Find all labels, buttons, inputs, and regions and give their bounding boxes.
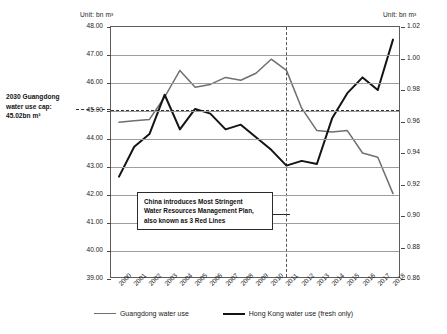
left-axis-unit-label: Unit: bn m³ <box>80 11 113 18</box>
annotation-box: China introduces Most Stringent Water Re… <box>137 192 273 230</box>
right-axis-unit-label: Unit: bn m³ <box>383 11 416 18</box>
left-axis-tick-label: 47.00 <box>73 50 103 57</box>
annotation-line-1: China introduces Most Stringent <box>144 197 267 206</box>
right-axis-tick-label: 0.92 <box>407 180 437 187</box>
left-axis-tick-label: 39.00 <box>73 274 103 281</box>
right-axis-tickmark <box>401 153 405 154</box>
legend-item-hongkong: Hong Kong water use (fresh only) <box>223 310 353 317</box>
series-lines <box>111 27 401 279</box>
gridline <box>111 139 399 140</box>
left-axis-tickmark <box>107 139 111 140</box>
legend-swatch-hongkong <box>223 313 245 315</box>
right-axis-tick-label: 1.02 <box>407 22 437 29</box>
right-axis-tickmark <box>401 90 405 91</box>
left-axis-tickmark <box>107 195 111 196</box>
series-line-hongkong <box>119 40 393 177</box>
left-axis-tick-label: 48.00 <box>73 22 103 29</box>
water-use-cap-note: 2030 Guangdong water use cap: 45.02bn m³ <box>6 92 76 121</box>
left-axis-tickmark <box>107 83 111 84</box>
right-axis-tick-label: 0.88 <box>407 243 437 250</box>
right-axis-tickmark <box>401 122 405 123</box>
left-axis-tick-label: 40.00 <box>73 246 103 253</box>
right-axis-tick-label: 0.96 <box>407 117 437 124</box>
right-axis-tick-label: 0.94 <box>407 148 437 155</box>
gridline <box>111 111 399 112</box>
right-axis-tickmark <box>401 27 405 28</box>
right-axis-tickmark <box>401 248 405 249</box>
annotation-line-2: Water Resources Management Plan, <box>144 206 267 215</box>
legend-label-guangdong: Guangdong water use <box>120 310 189 317</box>
left-axis-tickmark <box>107 111 111 112</box>
left-axis-tickmark <box>107 279 111 280</box>
right-axis-tickmark <box>401 216 405 217</box>
left-axis-tickmark <box>107 251 111 252</box>
legend-swatch-guangdong <box>94 313 116 314</box>
legend-item-guangdong: Guangdong water use <box>94 310 189 317</box>
left-axis-tick-label: 45.00 <box>73 106 103 113</box>
legend-label-hongkong: Hong Kong water use (fresh only) <box>249 310 353 317</box>
left-axis-tickmark <box>107 223 111 224</box>
right-axis-tick-label: 0.86 <box>407 274 437 281</box>
gridline <box>111 55 399 56</box>
gridline <box>111 251 399 252</box>
left-axis-tick-label: 46.00 <box>73 78 103 85</box>
left-axis-tick-label: 43.00 <box>73 162 103 169</box>
plot-area <box>110 26 400 278</box>
right-axis-tickmark <box>401 59 405 60</box>
left-axis-tickmark <box>107 55 111 56</box>
left-axis-tickmark <box>107 167 111 168</box>
right-axis-tick-label: 0.90 <box>407 211 437 218</box>
left-axis-tick-label: 42.00 <box>73 190 103 197</box>
left-axis-tick-label: 41.00 <box>73 218 103 225</box>
right-axis-tick-label: 0.98 <box>407 85 437 92</box>
gridline <box>111 167 399 168</box>
annotation-leader-line <box>273 214 290 215</box>
right-axis-tick-label: 1.00 <box>407 54 437 61</box>
chart-figure: Unit: bn m³ Unit: bn m³ 2030 Guangdong w… <box>0 0 447 334</box>
chart-legend: Guangdong water use Hong Kong water use … <box>0 310 447 317</box>
gridline <box>111 83 399 84</box>
left-axis-tick-label: 44.00 <box>73 134 103 141</box>
annotation-line-3: also known as 3 Red Lines <box>144 216 267 225</box>
left-axis-tickmark <box>107 27 111 28</box>
series-line-guangdong <box>119 59 393 193</box>
right-axis-tickmark <box>401 185 405 186</box>
